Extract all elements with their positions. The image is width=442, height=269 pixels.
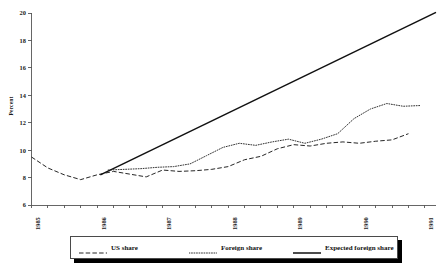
y-tick-label: 18 <box>10 37 26 44</box>
y-tick-label: 10 <box>10 147 26 154</box>
legend-label: Expected foreign share <box>325 245 394 252</box>
y-tick-label: 16 <box>10 64 26 71</box>
line-chart-plot <box>0 0 442 269</box>
legend-label: Foreign share <box>221 245 262 252</box>
legend-swatch-dashed-icon <box>79 244 107 254</box>
x-tick-label: 1991 <box>427 217 434 230</box>
legend-item[interactable]: Expected foreign share <box>293 243 394 255</box>
x-tick-label: 1985 <box>34 217 41 230</box>
y-tick-label: 14 <box>10 92 26 99</box>
x-tick-label: 1987 <box>165 217 172 230</box>
x-tick-label: 1988 <box>231 217 238 230</box>
legend-item[interactable]: US share <box>79 243 138 255</box>
legend-item[interactable]: Foreign share <box>189 243 262 255</box>
legend-swatch-dotted-icon <box>189 244 217 254</box>
x-tick-label: 1986 <box>100 217 107 230</box>
chart-legend: US shareForeign shareExpected foreign sh… <box>70 236 398 259</box>
series-line <box>32 134 409 180</box>
y-tick-label: 6 <box>10 201 26 208</box>
legend-label: US share <box>111 245 138 252</box>
y-tick-label: 8 <box>10 174 26 181</box>
legend-swatch-solid-icon <box>293 244 321 254</box>
x-tick-label: 1990 <box>362 217 369 230</box>
y-tick-label: 20 <box>10 9 26 16</box>
series-line <box>100 12 436 175</box>
chart-figure: Percent 68101214161820 19851986198719881… <box>0 0 442 269</box>
x-tick-label: 1989 <box>296 217 303 230</box>
y-tick-label: 12 <box>10 119 26 126</box>
series-line <box>108 104 419 171</box>
chart-series <box>32 12 437 179</box>
